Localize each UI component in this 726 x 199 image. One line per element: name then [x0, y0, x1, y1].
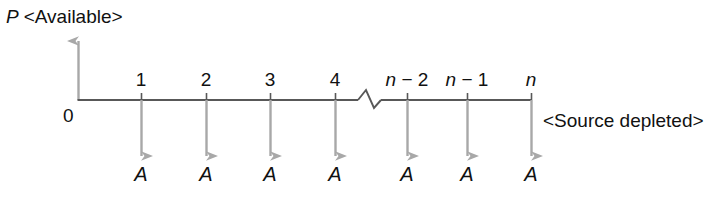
tick-label-1: 1	[136, 70, 147, 89]
tick-rest: 1	[136, 69, 147, 90]
source-depleted-note: <Source depleted>	[543, 111, 704, 130]
tick-label-n-minus-1: n − 1	[446, 70, 489, 89]
tick-rest: 2	[201, 69, 212, 90]
vertical-axis-variable: P	[6, 6, 19, 27]
vertical-axis-label: P<Available>	[6, 7, 123, 26]
product-label: A	[524, 164, 537, 184]
tick-label-2: 2	[201, 70, 212, 89]
tick-variable: n	[386, 69, 397, 90]
product-label: A	[199, 164, 212, 184]
tick-rest: − 1	[456, 69, 488, 90]
product-release-arrows	[142, 100, 532, 156]
origin-label: 0	[63, 106, 74, 125]
tick-rest: − 2	[396, 69, 428, 90]
axis-break-zigzag	[358, 90, 381, 108]
product-label: A	[328, 164, 341, 184]
product-label: A	[460, 164, 473, 184]
product-label: A	[400, 164, 413, 184]
tick-rest: 4	[330, 69, 341, 90]
tick-label-4: 4	[330, 70, 341, 89]
reaction-sequence-figure: P<Available> 0 1 2 3 4 n − 2 n − 1 n A A…	[0, 0, 726, 199]
tick-label-n: n	[526, 70, 537, 89]
vertical-axis-annotation: <Available>	[24, 6, 123, 27]
product-label: A	[263, 164, 276, 184]
figure-canvas	[0, 0, 726, 199]
product-label: A	[134, 164, 147, 184]
tick-variable: n	[526, 69, 537, 90]
tick-label-3: 3	[265, 70, 276, 89]
tick-label-n-minus-2: n − 2	[386, 70, 429, 89]
horizontal-axis	[78, 90, 532, 108]
tick-rest: 3	[265, 69, 276, 90]
axis-tick-marks	[142, 93, 532, 100]
tick-variable: n	[446, 69, 457, 90]
